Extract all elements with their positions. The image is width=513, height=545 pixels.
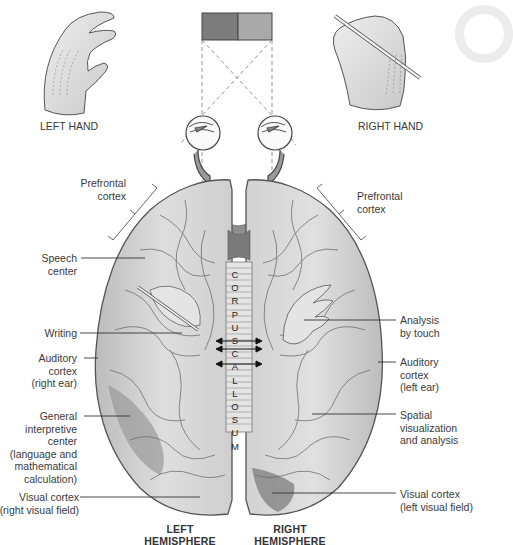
corpus-callosum-label: C O R P U S C A L L O S U M [229, 268, 241, 453]
label-writing: Writing [45, 327, 77, 340]
right-hemisphere-shape [246, 180, 382, 515]
label-visual-cortex-right-field: Visual cortex (right visual field) [0, 491, 79, 516]
label-general-interpretive-center: General interpretive center (language an… [10, 410, 77, 485]
label-visual-cortex-left-field: Visual cortex (left visual field) [400, 488, 473, 513]
left-hand-label: LEFT HAND [40, 120, 98, 132]
label-prefrontal-cortex-right: Prefrontal cortex [357, 190, 403, 215]
right-hemisphere-caption: RIGHT HEMISPHERE [250, 523, 330, 545]
left-eye [186, 116, 220, 184]
left-hemisphere-caption: LEFT HEMISPHERE [140, 523, 220, 545]
label-analysis-by-touch: Analysis by touch [400, 314, 440, 339]
label-spatial-visualization: Spatial visualization and analysis [400, 409, 458, 447]
label-speech-center: Speech center [41, 252, 77, 277]
left-hand-illustration [44, 12, 115, 115]
label-auditory-cortex-left-ear: Auditory cortex (left ear) [400, 356, 439, 394]
label-prefrontal-cortex-left: Prefrontal cortex [80, 177, 126, 202]
left-hemisphere-shape [95, 180, 232, 515]
label-auditory-cortex-right-ear: Auditory cortex (right ear) [31, 352, 77, 390]
visual-stimulus-square [202, 13, 272, 40]
right-hand-illustration [333, 16, 420, 110]
right-hand-label: RIGHT HAND [358, 120, 423, 132]
right-eye [258, 116, 292, 184]
